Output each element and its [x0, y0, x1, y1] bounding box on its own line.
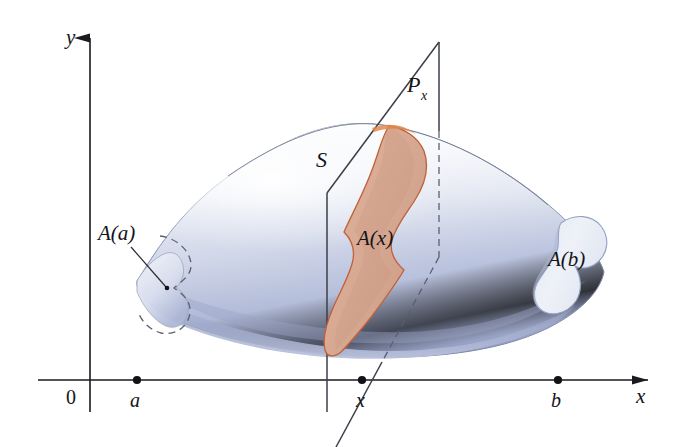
x-axis-label: x [635, 384, 646, 408]
point-a-label: a [130, 389, 140, 411]
point-b-dot [554, 376, 562, 384]
solid-label-S: S [316, 147, 327, 172]
origin-label: 0 [66, 386, 76, 408]
point-a-dot [133, 376, 141, 384]
area-label-Ab: A(b) [546, 247, 585, 271]
plane-label-P: P [406, 72, 420, 97]
solid-cross-section-diagram: y x 0 a x b S P x A(a) A(x) A(b) [0, 0, 676, 447]
point-x-label: x [355, 389, 365, 411]
area-label-Ax: A(x) [355, 226, 393, 250]
point-x-dot [358, 376, 366, 384]
area-label-Aa: A(a) [96, 221, 135, 245]
plane-label-subscript-x: x [420, 88, 428, 103]
point-b-label: b [551, 389, 561, 411]
figure-canvas: y x 0 a x b S P x A(a) A(x) A(b) [0, 0, 676, 447]
Aa-leader-endpoint [165, 286, 170, 291]
plane-label-Px: P x [406, 72, 428, 103]
y-axis-label: y [64, 25, 76, 49]
